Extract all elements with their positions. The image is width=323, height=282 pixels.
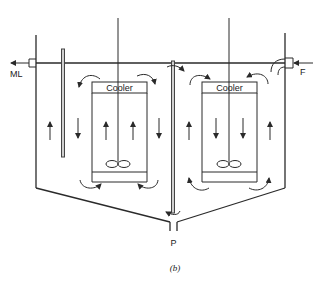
ml-outlet [11,59,36,67]
vessel [36,33,285,231]
feed-inlet [271,58,313,75]
feed-label: F [300,67,306,77]
crystallizer-diagram: ML F Cooler Cooler [0,0,323,282]
product-label: P [170,238,176,248]
figure-caption: (b) [170,263,181,273]
right-unit [202,18,257,182]
impeller-icon [217,161,229,168]
flow-arrows [50,118,270,140]
left-cooler-label: Cooler [106,83,133,93]
right-cooler-label: Cooler [216,83,243,93]
left-unit [92,18,147,182]
center-baffle [172,61,175,213]
ml-label: ML [10,69,23,79]
left-baffle [62,49,65,157]
impeller-icon [106,161,118,168]
